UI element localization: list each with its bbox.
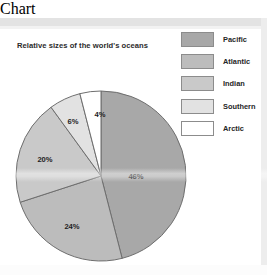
legend-swatch-arctic [181, 121, 214, 136]
legend-item-atlantic[interactable]: Atlantic [181, 52, 267, 71]
legend-label: Atlantic [223, 57, 250, 66]
legend-label: Pacific [223, 35, 247, 44]
pie-slice-value-indian: 20% [37, 155, 52, 164]
legend-swatch-atlantic [181, 54, 214, 69]
pie-slice-value-arctic: 4% [95, 110, 106, 119]
legend-item-indian[interactable]: Indian [181, 74, 267, 93]
legend-item-southern[interactable]: Southern [181, 97, 267, 116]
pie-slice-value-pacific: 46% [128, 172, 143, 181]
pie-slice-value-atlantic: 24% [64, 222, 79, 231]
legend-item-arctic[interactable]: Arctic [181, 119, 267, 138]
legend-label: Arctic [223, 124, 244, 133]
chart-legend: PacificAtlanticIndianSouthernArctic [181, 30, 267, 141]
legend-label: Indian [223, 79, 245, 88]
legend-swatch-southern [181, 99, 214, 114]
chart-page: Relative sizes of the world's oceans 46%… [0, 18, 267, 275]
legend-item-pacific[interactable]: Pacific [181, 30, 267, 49]
legend-label: Southern [223, 102, 255, 111]
legend-swatch-pacific [181, 32, 214, 47]
pie-slice-value-southern: 6% [68, 117, 79, 126]
legend-swatch-indian [181, 76, 214, 91]
